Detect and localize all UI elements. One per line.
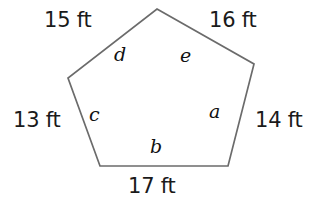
angle-label-c: c <box>89 105 100 124</box>
side-label-left: 13 ft <box>13 110 61 131</box>
side-label-top-right: 16 ft <box>209 10 257 31</box>
side-label-bottom: 17 ft <box>128 176 176 197</box>
side-label-top-left: 15 ft <box>44 10 92 31</box>
angle-label-e: e <box>180 46 191 65</box>
side-label-right: 14 ft <box>255 110 303 131</box>
angle-label-d: d <box>114 45 126 64</box>
pentagon-figure: 15 ft 16 ft 13 ft 14 ft 17 ft a b c d e <box>0 0 317 209</box>
angle-label-b: b <box>150 137 162 156</box>
angle-label-a: a <box>209 102 220 121</box>
